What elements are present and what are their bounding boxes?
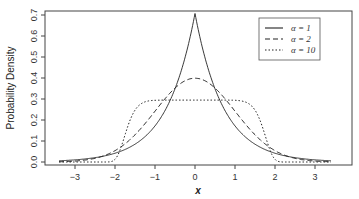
x-axis: −3−2−10123 (70, 165, 318, 182)
x-tick-label: −1 (150, 172, 160, 182)
x-tick-label: −3 (70, 172, 80, 182)
legend-label: α = 1 (291, 23, 311, 33)
legend: α = 1α = 2α = 10 (259, 18, 320, 60)
y-tick-label: 0.7 (29, 9, 39, 22)
x-tick-label: 2 (272, 172, 277, 182)
curve-alpha-10 (59, 100, 331, 162)
density-chart: 0.00.10.20.30.40.50.60.7 −3−2−10123 Prob… (0, 0, 359, 199)
y-axis-title: Probability Density (5, 47, 16, 130)
y-tick-label: 0.2 (29, 114, 39, 127)
y-axis: 0.00.10.20.30.40.50.60.7 (29, 9, 45, 169)
legend-label: α = 10 (291, 45, 316, 55)
x-axis-title: x (194, 185, 201, 196)
y-tick-label: 0.3 (29, 93, 39, 106)
x-tick-label: 3 (312, 172, 317, 182)
x-tick-label: 1 (232, 172, 237, 182)
y-tick-label: 0.4 (29, 72, 39, 85)
x-tick-label: 0 (192, 172, 197, 182)
legend-label: α = 2 (291, 34, 311, 44)
x-tick-label: −2 (110, 172, 120, 182)
y-tick-label: 0.0 (29, 156, 39, 169)
y-tick-label: 0.5 (29, 51, 39, 64)
y-tick-label: 0.1 (29, 135, 39, 148)
y-tick-label: 0.6 (29, 30, 39, 43)
curve-alpha-2 (59, 78, 331, 162)
